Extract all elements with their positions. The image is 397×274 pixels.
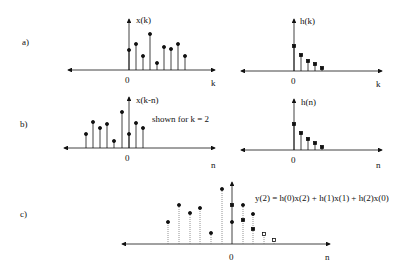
hn-label: h(n) xyxy=(301,98,316,107)
axis-k-a-left: k xyxy=(211,79,216,88)
panel-b-label: b) xyxy=(20,120,28,129)
axis-k-a-right: k xyxy=(376,80,381,89)
xkn-label: x(k-n) xyxy=(136,96,159,105)
origin-a-left: 0 xyxy=(125,76,130,85)
hk-label: h(k) xyxy=(300,17,315,26)
origin-c: 0 xyxy=(229,253,234,262)
stems-hn xyxy=(293,123,324,151)
stems-hk xyxy=(293,45,324,72)
origin-b-left: 0 xyxy=(125,154,130,163)
panel-a-label: a) xyxy=(22,38,29,47)
convolution-equation: y(2) = h(0)x(2) + h(1)x(1) + h(2)x(0) xyxy=(255,194,389,203)
shown-for-note: shown for k = 2 xyxy=(152,115,209,124)
stems-xk xyxy=(127,32,186,70)
panel-c-label: c) xyxy=(20,210,27,219)
xk-label: x(k) xyxy=(136,16,151,25)
axis-n-c: n xyxy=(325,253,330,262)
stems-xkn xyxy=(84,110,144,148)
convolution-diagram xyxy=(0,0,397,274)
origin-b-right: 0 xyxy=(291,156,296,165)
axis-n-b-left: n xyxy=(211,161,216,170)
origin-a-right: 0 xyxy=(291,77,296,86)
axis-n-b-right: n xyxy=(376,161,381,170)
